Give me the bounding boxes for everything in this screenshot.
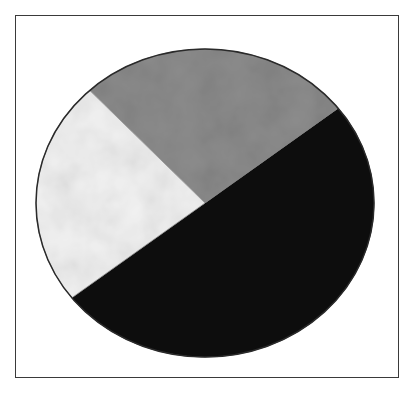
pie-chart [0, 0, 416, 393]
pie-slices [36, 49, 374, 357]
